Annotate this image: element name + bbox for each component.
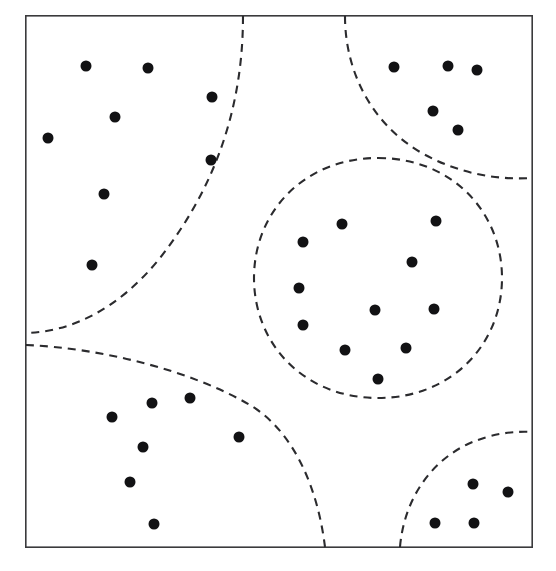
data-point (206, 155, 217, 166)
data-point (431, 216, 442, 227)
scatter-plot-canvas (0, 0, 556, 571)
data-point (468, 479, 479, 490)
data-point (340, 345, 351, 356)
data-point (370, 305, 381, 316)
data-point (81, 61, 92, 72)
data-point (443, 61, 454, 72)
data-point (389, 62, 400, 73)
data-point (298, 237, 309, 248)
data-point (472, 65, 483, 76)
data-point (430, 518, 441, 529)
data-point (428, 106, 439, 117)
data-point (234, 432, 245, 443)
data-point (110, 112, 121, 123)
data-point (43, 133, 54, 144)
data-point (143, 63, 154, 74)
data-point (149, 519, 160, 530)
plot-frame (26, 16, 532, 547)
data-point (429, 304, 440, 315)
data-point (107, 412, 118, 423)
data-point (298, 320, 309, 331)
data-point (185, 393, 196, 404)
data-point (99, 189, 110, 200)
data-point (401, 343, 412, 354)
data-point (207, 92, 218, 103)
data-point (503, 487, 514, 498)
data-point (337, 219, 348, 230)
data-point (373, 374, 384, 385)
data-point (453, 125, 464, 136)
data-point (138, 442, 149, 453)
data-point (407, 257, 418, 268)
data-point (294, 283, 305, 294)
data-point (147, 398, 158, 409)
data-point (87, 260, 98, 271)
data-point (469, 518, 480, 529)
data-point (125, 477, 136, 488)
figure-root (0, 0, 556, 571)
